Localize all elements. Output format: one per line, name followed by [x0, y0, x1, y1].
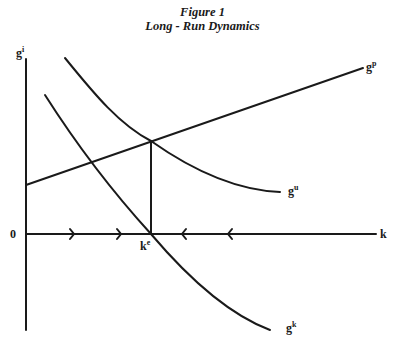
curve-gk: [45, 95, 270, 330]
equilibrium-label: ke: [140, 238, 151, 253]
x-axis-label: k: [380, 227, 387, 241]
gu-label: gu: [288, 183, 299, 198]
y-axis-label: gi: [16, 45, 25, 60]
diagram-canvas: gi k 0 gp gu gk ke: [0, 0, 405, 344]
origin-label: 0: [10, 227, 16, 241]
gk-label: gk: [286, 320, 297, 335]
gp-label: gp: [366, 59, 377, 74]
curve-gu: [65, 58, 280, 192]
